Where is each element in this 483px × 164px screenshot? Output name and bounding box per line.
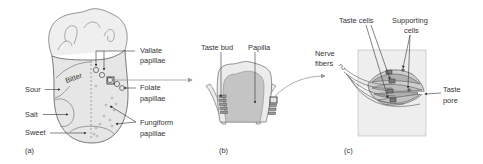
taste-pore-label-line2: pore — [443, 96, 458, 105]
nerve-fibers-label-line1: Nerve — [315, 49, 335, 58]
papilla-label: Papilla — [248, 43, 271, 52]
pharynx-outline — [49, 9, 127, 56]
supporting-cells-label-line1: Supporting — [392, 16, 428, 25]
vallate-label-line1: Vallate — [140, 46, 162, 55]
tongue-outline — [52, 50, 128, 143]
folate-label-line1: Folate — [140, 83, 161, 92]
vallate-label-line2: papillae — [140, 56, 165, 65]
taste-anatomy-diagram: Bitter Sour Salt Sweet (a) Vallate papil… — [0, 0, 483, 164]
nerve-fibers-label-line2: fibers — [315, 59, 333, 68]
panel-b-label: (b) — [219, 146, 228, 155]
folate-label-line2: papillae — [140, 94, 165, 103]
panel-a-tongue: Bitter Sour Salt Sweet (a) Vallate papil… — [25, 9, 173, 155]
supporting-cells-label-line2: cells — [404, 26, 419, 35]
sour-label: Sour — [25, 85, 41, 94]
panel-a-label: (a) — [25, 146, 34, 155]
taste-cells-label: Taste cells — [339, 16, 374, 25]
taste-bud-label: Taste bud — [201, 43, 233, 52]
panel-b-papilla: Taste bud Papilla (b) — [201, 43, 277, 155]
sweet-label: Sweet — [25, 128, 46, 137]
fungiform-label-line1: Fungiform — [140, 118, 173, 127]
salt-label: Salt — [25, 110, 38, 119]
papilla-core — [223, 71, 264, 122]
taste-bud-right — [269, 97, 278, 114]
fungiform-label-line2: papillae — [140, 129, 165, 138]
taste-pore-label-line1: Taste — [443, 85, 461, 94]
panel-c-label: (c) — [344, 146, 353, 155]
connector-b-to-c — [275, 76, 325, 96]
panel-c-taste-bud: Taste cells Supporting cells Nerve fiber… — [315, 16, 461, 155]
